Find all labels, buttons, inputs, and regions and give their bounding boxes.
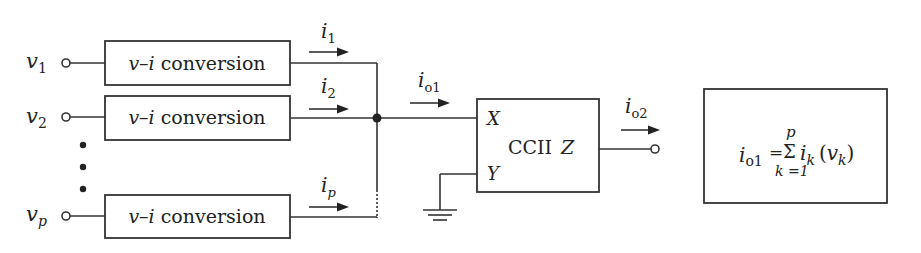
input-terminal-p <box>62 212 105 220</box>
arrow-i2 <box>309 105 349 114</box>
input-label-v2: v2 <box>26 104 47 131</box>
input-label-vp: vp <box>26 202 47 229</box>
label-i1: i1 <box>321 19 336 46</box>
label-io2: io2 <box>625 94 648 121</box>
ccii-name: CCII <box>508 136 552 158</box>
input-terminal-1 <box>62 59 105 67</box>
ccii-block: X Y CCII Z <box>477 99 599 192</box>
arrow-i1 <box>309 48 349 57</box>
label-i2: i2 <box>321 74 336 101</box>
converter-label-2: v–i conversion <box>128 106 265 128</box>
input-label-v1: v1 <box>26 49 47 76</box>
junction-node <box>373 114 382 123</box>
port-x-label: X <box>485 108 501 129</box>
port-z-label: Z <box>560 136 575 158</box>
eq-sum: Σ <box>783 141 796 162</box>
converter-label-p: v–i conversion <box>128 205 265 227</box>
converter-box-1: v–i conversion <box>105 41 290 85</box>
converter-box-p: v–i conversion <box>105 195 290 238</box>
label-io1: io1 <box>418 68 441 95</box>
ground-icon <box>423 174 477 220</box>
equation-box: io1 = Σ p k =1 ik(vk) <box>704 89 887 203</box>
arrow-io1 <box>410 99 450 108</box>
eq-upper-limit: p <box>786 123 796 141</box>
ellipsis-dots <box>80 142 86 192</box>
eq-lower-limit: k =1 <box>775 163 809 179</box>
eq-equals: = <box>769 142 783 162</box>
converter-box-2: v–i conversion <box>105 96 290 140</box>
label-ip: ip <box>321 173 336 200</box>
converter-label-1: v–i conversion <box>128 52 265 74</box>
output-terminal-z <box>599 145 659 153</box>
arrow-ip <box>309 203 349 212</box>
ccii-summing-diagram: v1 v2 vp v–i conversion v–i conversion v… <box>0 0 921 253</box>
arrow-io2 <box>621 126 660 135</box>
input-terminal-2 <box>62 113 105 121</box>
